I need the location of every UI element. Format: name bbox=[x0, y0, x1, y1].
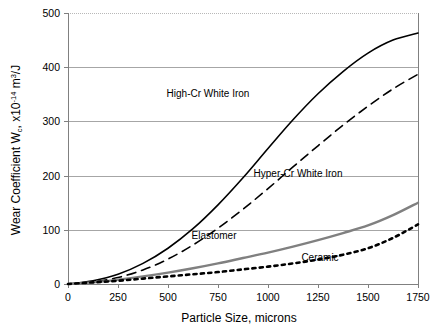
series-curves-group bbox=[68, 33, 418, 284]
series-label-elastomer: Elastomer bbox=[191, 230, 237, 241]
x-axis-title: Particle Size, microns bbox=[181, 311, 296, 325]
y-tick-label-200: 200 bbox=[42, 170, 60, 182]
x-tick-label-1500: 1500 bbox=[356, 291, 380, 303]
y-axis-title: Wear Coefficient Wc, x10-14 m3/J bbox=[9, 65, 24, 235]
series-curve-hyper-cr-white-iron bbox=[68, 74, 418, 284]
y-tick-label-0: 0 bbox=[54, 278, 60, 290]
series-label-high-cr-white-iron: High-Cr White Iron bbox=[167, 88, 250, 99]
x-tick-label-1000: 1000 bbox=[256, 291, 280, 303]
series-label-hyper-cr-white-iron: Hyper-Cr White Iron bbox=[254, 168, 343, 179]
series-curve-high-cr-white-iron bbox=[68, 33, 418, 284]
series-curve-ceramic bbox=[68, 224, 418, 284]
x-tick-label-750: 750 bbox=[209, 291, 227, 303]
y-tick-label-500: 500 bbox=[42, 7, 60, 19]
x-tick-label-1750: 1750 bbox=[406, 291, 430, 303]
gridlines-group bbox=[68, 14, 418, 231]
y-tick-label-100: 100 bbox=[42, 224, 60, 236]
x-tick-label-0: 0 bbox=[65, 291, 71, 303]
wear-coefficient-chart: 0100200300400500025050075010001250150017… bbox=[0, 0, 448, 331]
x-tick-label-1250: 1250 bbox=[306, 291, 330, 303]
series-curve-elastomer bbox=[68, 203, 418, 284]
y-tick-label-400: 400 bbox=[42, 61, 60, 73]
series-label-ceramic: Ceramic bbox=[301, 252, 338, 263]
chart-svg: 0100200300400500025050075010001250150017… bbox=[0, 0, 448, 331]
y-tick-label-300: 300 bbox=[42, 115, 60, 127]
x-tick-label-500: 500 bbox=[159, 291, 177, 303]
x-tick-label-250: 250 bbox=[109, 291, 127, 303]
